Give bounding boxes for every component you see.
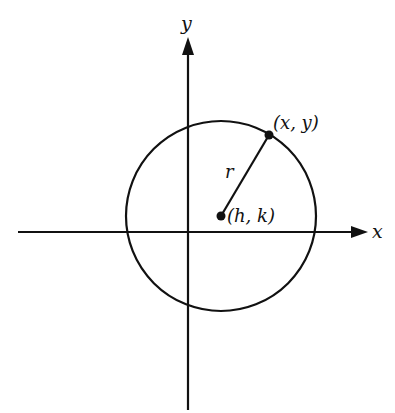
- center-point: [217, 212, 226, 221]
- point-label: (x, y): [273, 112, 319, 133]
- circle-diagram: y x (h, k) (x, y) r: [0, 0, 395, 413]
- y-axis-label: y: [180, 12, 192, 34]
- x-axis-arrow-icon: [351, 226, 368, 238]
- diagram-canvas: y x (h, k) (x, y) r: [0, 0, 395, 413]
- y-axis-arrow-icon: [182, 37, 194, 55]
- y-axis: [182, 37, 194, 410]
- center-label: (h, k): [227, 205, 275, 226]
- x-axis-label: x: [372, 220, 383, 242]
- radius-label: r: [225, 161, 235, 182]
